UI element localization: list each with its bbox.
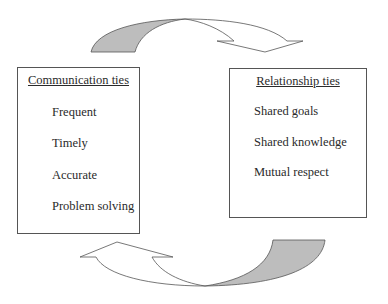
item-mutual-respect: Mutual respect xyxy=(254,165,329,180)
bottom-cycle-arrow xyxy=(80,240,325,286)
relationship-ties-box: Relationship ties Shared goals Shared kn… xyxy=(229,68,367,218)
communication-ties-box: Communication ties Frequent Timely Accur… xyxy=(17,67,140,234)
item-accurate: Accurate xyxy=(52,168,97,183)
bottom-arrow-tail xyxy=(205,240,325,286)
relationship-ties-title: Relationship ties xyxy=(230,74,366,89)
top-cycle-arrow xyxy=(91,19,303,52)
top-arrow-tail xyxy=(91,19,185,52)
item-frequent: Frequent xyxy=(52,105,96,120)
item-problem-solving: Problem solving xyxy=(52,199,134,214)
item-shared-knowledge: Shared knowledge xyxy=(254,135,347,150)
communication-ties-title: Communication ties xyxy=(18,73,139,88)
top-arrow-head xyxy=(185,19,303,52)
item-timely: Timely xyxy=(52,136,88,151)
bottom-arrow-head xyxy=(80,242,205,286)
item-shared-goals: Shared goals xyxy=(254,104,318,119)
